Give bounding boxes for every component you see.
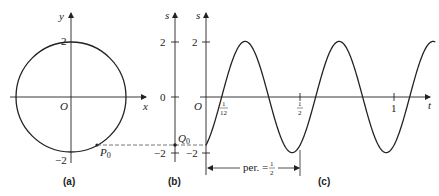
origin-label-c: O <box>194 100 202 112</box>
tick-label-2-c: 2 <box>192 36 198 48</box>
period-label: per. = <box>243 161 268 173</box>
caption-a: (a) <box>63 176 75 187</box>
point-q0 <box>173 143 177 147</box>
tick-1-12-num: 1 <box>222 100 226 108</box>
s-axis-label-b: s <box>165 9 169 21</box>
panel-b-axis: s 2 0 −2 Q0 (b) <box>154 9 190 187</box>
tick-1-12-den: 12 <box>220 109 228 117</box>
tick-label-2: 2 <box>61 35 67 47</box>
caption-c: (c) <box>318 176 330 187</box>
y-axis-label: y <box>58 10 64 22</box>
panel-c-graph: s t O 2 −2 1 12 1 2 1 per. = 1 2 (c) <box>186 9 435 187</box>
t-axis-label: t <box>428 99 432 111</box>
caption-b: (b) <box>168 176 181 187</box>
diagram-canvas: y x O 2 −2 P0 (a) s 2 0 −2 Q0 (b) s t O … <box>0 0 439 196</box>
q0-label: Q0 <box>178 132 190 146</box>
origin-label: O <box>60 100 68 112</box>
panel-a-circle: y x O 2 −2 P0 (a) <box>10 10 148 187</box>
x-axis-label: x <box>142 100 148 112</box>
period-num: 1 <box>270 160 274 168</box>
period-den: 2 <box>270 169 274 177</box>
tick-label-neg2-b: −2 <box>154 147 166 159</box>
tick-half-den: 2 <box>298 109 302 117</box>
tick-label-2-b: 2 <box>160 36 166 48</box>
tick-label-neg2-c: −2 <box>186 147 198 159</box>
tick-label-1: 1 <box>391 102 397 114</box>
tick-label-neg2: −2 <box>55 154 67 166</box>
tick-label-0-b: 0 <box>160 91 166 103</box>
tick-half-num: 1 <box>298 100 302 108</box>
s-axis-label-c: s <box>196 9 200 21</box>
p0-label: P0 <box>99 146 111 160</box>
